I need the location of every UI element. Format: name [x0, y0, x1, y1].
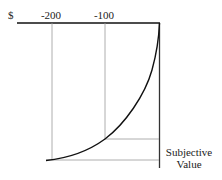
- value-function-chart: $ -200 -100 Subjective Value: [0, 0, 222, 180]
- tick-label-minus-200: -200: [41, 9, 62, 21]
- tick-label-minus-100: -100: [94, 9, 115, 21]
- value-curve: [46, 23, 160, 161]
- y-axis-label-line1: Subjective: [166, 146, 213, 158]
- dollar-label: $: [8, 9, 14, 21]
- y-axis-label-line2: Value: [176, 158, 201, 170]
